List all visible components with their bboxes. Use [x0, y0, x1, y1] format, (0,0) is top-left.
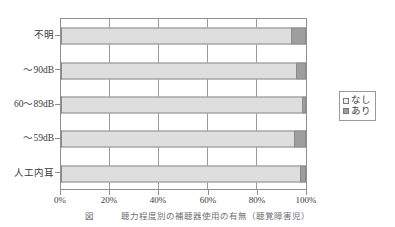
y-axis-tick — [55, 69, 60, 70]
bar-row — [61, 157, 306, 191]
stacked-bar — [61, 62, 306, 79]
bar-segment-ari[interactable] — [300, 165, 306, 182]
x-axis-label-20: 20% — [89, 196, 129, 205]
stacked-bar — [61, 131, 306, 148]
bar-segment-ari[interactable] — [302, 96, 306, 113]
y-axis-label-fumei: 不明 — [0, 31, 54, 41]
y-axis-label-59db: ～59dB — [0, 134, 54, 144]
y-axis-tick — [55, 138, 60, 139]
y-axis-label-60-89db: 60～89dB — [0, 100, 54, 110]
legend-item-nashi[interactable]: なし — [343, 96, 371, 106]
legend: なし あり — [339, 91, 376, 121]
bar-segment-nashi[interactable] — [61, 165, 300, 182]
stacked-bar — [61, 28, 306, 45]
legend-swatch-icon — [343, 98, 349, 104]
x-axis-label-60: 60% — [188, 196, 228, 205]
bar-segment-ari[interactable] — [291, 28, 306, 45]
y-axis-tick — [55, 35, 60, 36]
y-axis-tick — [55, 172, 60, 173]
bar-row — [61, 19, 306, 53]
bar-segment-ari[interactable] — [294, 131, 306, 148]
x-axis-label-40: 40% — [138, 196, 178, 205]
y-axis-tick — [55, 104, 60, 105]
bar-segment-nashi[interactable] — [61, 62, 296, 79]
bar-row — [61, 53, 306, 87]
y-axis-label-90db: ～90dB — [0, 66, 54, 76]
x-axis-label-100: 100% — [286, 196, 326, 205]
stacked-bar — [61, 96, 306, 113]
plot-area — [60, 18, 307, 190]
legend-label-ari: あり — [351, 107, 371, 117]
x-axis-label-0: 0% — [40, 196, 80, 205]
legend-swatch-icon — [343, 108, 349, 114]
stacked-bar-chart-figure: 不明 ～90dB 60～89dB ～59dB 人工内耳 0% 20% 40% 6… — [0, 0, 395, 227]
stacked-bar — [61, 165, 306, 182]
bar-segment-ari[interactable] — [296, 62, 306, 79]
bar-row — [61, 122, 306, 156]
y-axis-label-jinkou-naiji: 人工内耳 — [0, 169, 54, 179]
x-axis-label-80: 80% — [237, 196, 277, 205]
bar-segment-nashi[interactable] — [61, 131, 294, 148]
bar-segment-nashi[interactable] — [61, 96, 302, 113]
bar-row — [61, 88, 306, 122]
figure-caption: 図 聴力程度別の補聴器使用の有無（聴覚障害児） — [0, 212, 395, 221]
bar-segment-nashi[interactable] — [61, 28, 291, 45]
legend-label-nashi: なし — [351, 96, 371, 106]
legend-item-ari[interactable]: あり — [343, 107, 371, 117]
